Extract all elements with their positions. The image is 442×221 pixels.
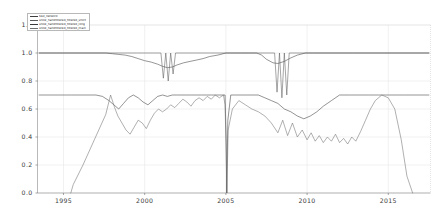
chart-legend[interactable]: test_network snow_handfiltered_filtered_… bbox=[27, 13, 90, 31]
x-tick-label: 2000 bbox=[125, 197, 165, 204]
legend-item: snow_handfiltered_filtered_main bbox=[30, 27, 88, 31]
y-tick-label: 0.0 bbox=[11, 189, 33, 196]
plot-canvas bbox=[0, 0, 442, 221]
legend-line-swatch bbox=[30, 28, 38, 29]
y-tick-label: 0.4 bbox=[11, 133, 33, 140]
x-tick-label: 1995 bbox=[43, 197, 83, 204]
legend-item-label: test_network bbox=[39, 15, 58, 19]
legend-item-label: snow_handfiltered_filtered_short bbox=[39, 19, 86, 23]
tick-marks bbox=[36, 25, 389, 195]
legend-line-swatch bbox=[30, 16, 38, 17]
y-tick-label: 0.8 bbox=[11, 77, 33, 84]
x-tick-label: 2010 bbox=[287, 197, 327, 204]
x-tick-label: 2005 bbox=[206, 197, 246, 204]
data-series-group bbox=[39, 53, 429, 193]
chart-figure: 0.00.20.40.60.81.01.2 199520002005201020… bbox=[0, 0, 442, 221]
y-tick-label: 0.6 bbox=[11, 105, 33, 112]
legend-item-label: snow_handfiltered_filtered_main bbox=[39, 27, 86, 31]
y-tick-label: 1.0 bbox=[11, 49, 33, 56]
legend-line-swatch bbox=[30, 24, 38, 25]
x-tick-label: 2015 bbox=[368, 197, 408, 204]
gridlines bbox=[38, 25, 431, 193]
legend-line-swatch bbox=[30, 20, 38, 21]
y-tick-label: 0.2 bbox=[11, 161, 33, 168]
